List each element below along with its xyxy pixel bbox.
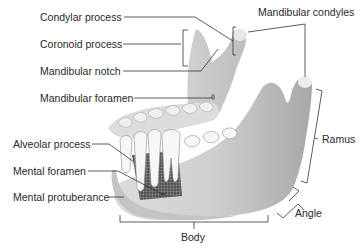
label-coronoid-process: Coronoid process (40, 38, 122, 50)
mandible-diagram: Condylar process Coronoid process Mandib… (0, 0, 363, 251)
label-angle: Angle (295, 207, 322, 219)
label-alveolar-process: Alveolar process (13, 138, 91, 150)
label-mandibular-foramen: Mandibular foramen (40, 92, 133, 104)
label-body: Body (181, 231, 205, 243)
label-mental-foramen: Mental foramen (13, 165, 86, 177)
label-ramus: Ramus (322, 133, 355, 145)
label-mental-protuberance: Mental protuberance (13, 191, 109, 203)
label-mandibular-notch: Mandibular notch (40, 65, 121, 77)
label-condylar-process: Condylar process (40, 11, 122, 23)
label-mandibular-condyles: Mandibular condyles (258, 6, 354, 18)
